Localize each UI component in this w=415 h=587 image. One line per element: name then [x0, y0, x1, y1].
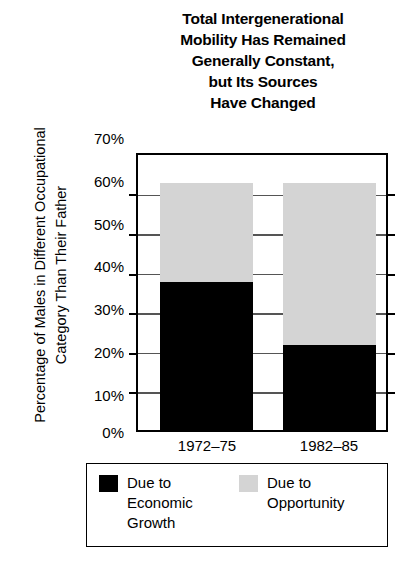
chart-title-line: but Its Sources	[132, 71, 394, 92]
y-tick-label-20: 20%	[66, 345, 124, 360]
legend-label-line: Economic	[127, 494, 193, 511]
bar-group-1972-75[interactable]	[160, 183, 253, 430]
chart-title-line: Mobility Has Remained	[132, 29, 394, 50]
y-tick-mark-30-right	[388, 313, 395, 315]
plot-area	[136, 153, 388, 432]
y-tick-label-50: 50%	[66, 217, 124, 232]
chart-title: Total Intergenerational Mobility Has Rem…	[132, 8, 394, 113]
y-tick-mark-10-left	[129, 392, 136, 394]
y-tick-mark-50-left	[129, 234, 136, 236]
y-tick-mark-60-right	[388, 194, 395, 196]
chart-legend: Due toEconomicGrowth Due toOpportunity	[86, 463, 388, 547]
chart-title-line: Generally Constant,	[132, 50, 394, 71]
y-tick-label-0: 0%	[66, 425, 124, 440]
y-tick-mark-20-right	[388, 353, 395, 355]
bar-segment-economic-growth[interactable]	[160, 282, 253, 430]
chart-title-line: Have Changed	[132, 92, 394, 113]
y-tick-label-40: 40%	[66, 259, 124, 274]
y-tick-label-10: 10%	[66, 388, 124, 403]
y-tick-mark-40-right	[388, 274, 395, 276]
legend-label-opportunity: Due toOpportunity	[267, 473, 345, 513]
chart-title-line: Total Intergenerational	[132, 8, 394, 29]
y-tick-label-70: 70%	[66, 131, 124, 146]
legend-item-economic-growth[interactable]: Due toEconomicGrowth	[99, 473, 193, 533]
legend-swatch-economic-growth	[99, 475, 118, 492]
y-tick-mark-40-left	[129, 274, 136, 276]
legend-label-line: Due to	[127, 474, 171, 491]
legend-label-economic-growth: Due toEconomicGrowth	[127, 473, 193, 533]
bar-segment-economic-growth[interactable]	[283, 345, 376, 430]
y-axis-title-line: Percentage of Males in Different Occupat…	[30, 75, 51, 475]
legend-swatch-opportunity	[239, 475, 258, 492]
y-tick-mark-60-left	[129, 194, 136, 196]
y-tick-label-30: 30%	[66, 302, 124, 317]
x-tick-label-1972-75: 1972–75	[152, 437, 262, 455]
y-tick-mark-20-left	[129, 353, 136, 355]
x-tick-label-1982-85: 1982–85	[274, 437, 384, 455]
legend-label-line: Growth	[127, 514, 175, 531]
y-tick-mark-30-left	[129, 313, 136, 315]
y-tick-mark-10-right	[388, 392, 395, 394]
y-tick-mark-50-right	[388, 234, 395, 236]
legend-label-line: Opportunity	[267, 494, 345, 511]
y-tick-label-60: 60%	[66, 174, 124, 189]
legend-label-line: Due to	[267, 474, 311, 491]
bar-group-1982-85[interactable]	[283, 183, 376, 430]
legend-item-opportunity[interactable]: Due toOpportunity	[239, 473, 345, 513]
